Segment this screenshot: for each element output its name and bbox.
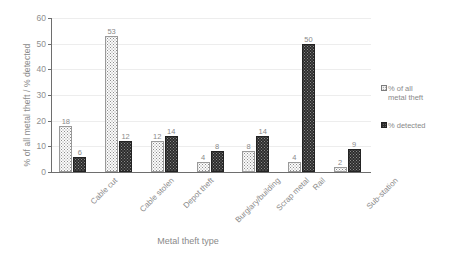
y-axis-tick-mark bbox=[48, 95, 51, 96]
series-0-swatch-icon bbox=[381, 85, 387, 91]
bar-group: 5312 bbox=[105, 18, 132, 172]
bar: 14 bbox=[165, 136, 178, 172]
bar: 8 bbox=[211, 151, 224, 172]
y-axis-tick-label: 0 bbox=[41, 167, 46, 177]
bar-value-label: 18 bbox=[62, 117, 70, 126]
x-axis-tick-label: Rail bbox=[311, 176, 327, 192]
bar: 8 bbox=[242, 151, 255, 172]
bar: 50 bbox=[302, 44, 315, 172]
bar-value-label: 14 bbox=[167, 127, 175, 136]
legend-item-0: % of all metal theft bbox=[381, 84, 423, 103]
bar-value-label: 14 bbox=[259, 127, 267, 136]
bar: 4 bbox=[288, 162, 301, 172]
bar-value-label: 12 bbox=[121, 132, 129, 141]
x-axis-title: Metal theft type bbox=[0, 236, 456, 246]
bar: 6 bbox=[73, 157, 86, 172]
bar-value-label: 2 bbox=[338, 158, 342, 167]
bar-group: 29 bbox=[334, 18, 361, 172]
y-axis-tick-mark bbox=[48, 146, 51, 147]
bar: 12 bbox=[151, 141, 164, 172]
bar-group: 814 bbox=[242, 18, 269, 172]
bar: 18 bbox=[59, 126, 72, 172]
bar: 4 bbox=[197, 162, 210, 172]
bar-value-label: 8 bbox=[247, 142, 251, 151]
y-axis-title: % of all metal theft / % detected bbox=[22, 20, 32, 190]
y-axis-tick-mark bbox=[48, 172, 51, 173]
y-axis-tick-label: 60 bbox=[37, 13, 46, 23]
plot-area: 0102030405060 186531212144881445029 Cabl… bbox=[51, 18, 371, 172]
bar-value-label: 8 bbox=[215, 142, 219, 151]
bar-group: 186 bbox=[59, 18, 86, 172]
legend-label-1: % detected bbox=[388, 121, 426, 130]
y-axis-tick-mark bbox=[48, 18, 51, 19]
x-axis-tick-label: Cable cut bbox=[89, 176, 119, 206]
bar: 53 bbox=[105, 36, 118, 172]
bar: 9 bbox=[348, 149, 361, 172]
bar-group: 1214 bbox=[151, 18, 178, 172]
bar-group: 48 bbox=[197, 18, 224, 172]
bar-value-label: 9 bbox=[352, 140, 356, 149]
bar-group: 450 bbox=[288, 18, 315, 172]
legend-label-0: % of all metal theft bbox=[388, 84, 423, 103]
x-axis-tick-label: Burglary/building bbox=[233, 176, 282, 225]
y-axis-tick-label: 30 bbox=[37, 90, 46, 100]
x-axis-tick-label: Cable stolen bbox=[138, 176, 176, 214]
bar-value-label: 50 bbox=[304, 35, 312, 44]
y-axis-tick-label: 40 bbox=[37, 64, 46, 74]
y-axis-tick-label: 10 bbox=[37, 141, 46, 151]
y-axis-tick-mark bbox=[48, 121, 51, 122]
bar: 12 bbox=[119, 141, 132, 172]
bar-chart: % of all metal theft / % detected 010203… bbox=[0, 0, 456, 264]
bar-value-label: 6 bbox=[78, 148, 82, 157]
x-axis-line bbox=[51, 172, 371, 173]
y-axis-tick-mark bbox=[48, 69, 51, 70]
x-axis-tick-label: Sub-station bbox=[365, 176, 400, 211]
legend-item-1: % detected bbox=[381, 121, 426, 130]
bar-value-label: 4 bbox=[201, 153, 205, 162]
bar-value-label: 12 bbox=[153, 132, 161, 141]
x-axis-tick-label: Depot theft bbox=[182, 176, 216, 210]
bar: 2 bbox=[334, 167, 347, 172]
y-axis-tick-mark bbox=[48, 44, 51, 45]
bar-value-label: 4 bbox=[292, 153, 296, 162]
series-1-swatch-icon bbox=[381, 122, 387, 128]
bar-value-label: 53 bbox=[107, 27, 115, 36]
y-axis-tick-label: 50 bbox=[37, 39, 46, 49]
bar: 14 bbox=[256, 136, 269, 172]
y-axis-tick-label: 20 bbox=[37, 116, 46, 126]
